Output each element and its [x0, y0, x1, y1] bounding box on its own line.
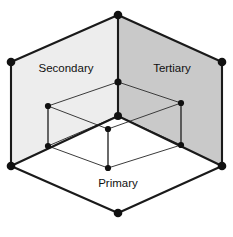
label-tertiary: Tertiary [153, 62, 191, 74]
vertex-dot-center-back [114, 78, 121, 85]
vertex-dot-right-top [218, 58, 227, 67]
vertex-dot-left-top [7, 58, 16, 67]
vertex-dot-bottom-apex [114, 209, 123, 218]
vertex-dot-top-apex [114, 11, 123, 20]
vertex-dot-inner-right-bottom [178, 142, 184, 148]
label-primary: Primary [98, 177, 138, 189]
vertex-dot-inner-left-top [45, 103, 51, 109]
vertex-dot-inner-front-bottom [105, 165, 111, 171]
isometric-volumes-diagram: Secondary Tertiary Primary [0, 0, 233, 237]
label-secondary: Secondary [39, 62, 94, 74]
vertex-dot-right-bottom [218, 162, 227, 171]
vertex-dot-inner-left-bottom [45, 143, 51, 149]
vertex-dot-center-front [114, 112, 122, 120]
vertex-dot-left-bottom [7, 162, 16, 171]
vertex-dot-inner-front-top [105, 126, 111, 132]
vertex-dot-inner-right-top [178, 100, 184, 106]
diagram-canvas: Secondary Tertiary Primary [0, 0, 233, 237]
